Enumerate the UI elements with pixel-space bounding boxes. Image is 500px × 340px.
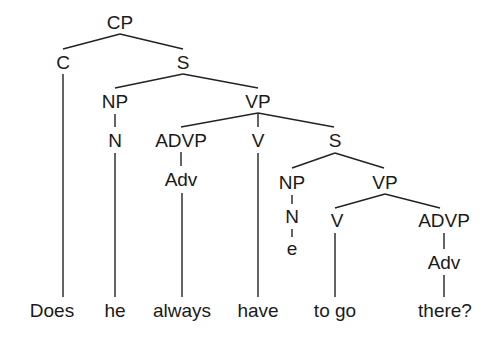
tree-edges <box>0 0 500 340</box>
node-advp: ADVP <box>155 131 207 150</box>
word-he: he <box>104 301 125 320</box>
node-s-embedded: S <box>329 131 342 150</box>
node-np: NP <box>102 92 128 111</box>
node-n-embedded: N <box>285 207 299 226</box>
node-n: N <box>108 131 122 150</box>
node-c: C <box>56 53 70 72</box>
node-np-embedded: NP <box>279 173 305 192</box>
node-empty-e: e <box>287 239 298 258</box>
word-always: always <box>153 301 211 320</box>
node-cp: CP <box>107 13 133 32</box>
word-have: have <box>237 301 278 320</box>
word-to-go: to go <box>314 301 356 320</box>
node-adv: Adv <box>165 170 198 189</box>
word-there: there? <box>418 301 472 320</box>
node-vp-embedded: VP <box>372 173 397 192</box>
node-vp: VP <box>245 92 270 111</box>
syntax-tree-diagram: CP C S NP VP N ADVP V S Adv NP VP N V AD… <box>0 0 500 340</box>
node-v-embedded: V <box>331 211 344 230</box>
node-v: V <box>252 131 265 150</box>
node-advp-embedded: ADVP <box>418 211 470 230</box>
word-does: Does <box>30 301 74 320</box>
node-adv-embedded: Adv <box>428 253 461 272</box>
node-s: S <box>177 53 190 72</box>
